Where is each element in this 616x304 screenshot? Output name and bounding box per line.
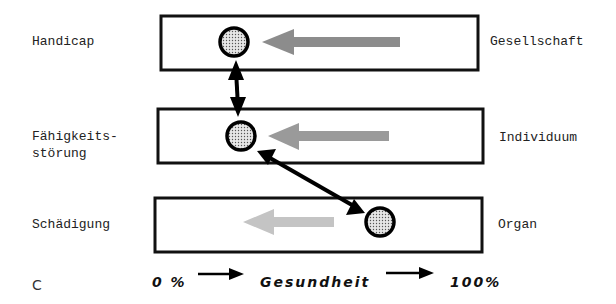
- label-individuum: Individuum: [499, 129, 577, 146]
- axis-end-label: 100%: [450, 274, 501, 290]
- label-handicap: Handicap: [32, 33, 94, 50]
- axis-start-label: 0 %: [152, 274, 187, 290]
- label-organ: Organ: [498, 216, 537, 233]
- position-marker-handicap: [220, 28, 248, 56]
- diagram-canvas: Handicap Fähigkeits- störung Schädigung …: [0, 0, 616, 304]
- axis-title-gesundheit: Gesundheit: [260, 274, 370, 290]
- position-marker-schaedigung: [366, 208, 394, 236]
- label-gesellschaft: Gesellschaft: [490, 33, 584, 50]
- axis-arrow-icon-right: [386, 267, 434, 279]
- position-marker-faehigkeitsstoerung: [227, 122, 255, 150]
- figure-mark: C: [32, 277, 42, 293]
- label-schaedigung: Schädigung: [32, 216, 110, 233]
- axis-arrow-icon-left: [198, 268, 244, 280]
- label-faehigkeitsstoerung: Fähigkeits- störung: [32, 128, 118, 162]
